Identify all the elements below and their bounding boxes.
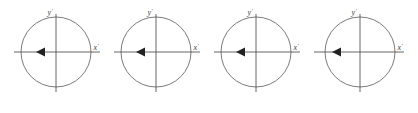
- x-axis-label: x′: [397, 43, 404, 52]
- y-axis-label: y′: [47, 8, 54, 17]
- y-axis-label: y′: [147, 8, 154, 17]
- x-axis-direction-arrow: [136, 48, 145, 57]
- x-axis-label: x′: [293, 43, 300, 52]
- figure-canvas: y′ x′ y′ x′ y′: [0, 0, 418, 113]
- x-axis-label: x′: [193, 43, 200, 52]
- y-axis-label: y′: [247, 8, 254, 17]
- coordinate-diagram-4: y′ x′: [304, 0, 418, 113]
- x-axis-direction-arrow: [332, 48, 341, 57]
- coordinate-diagram-3: y′ x′: [200, 0, 318, 113]
- x-axis-direction-arrow: [236, 48, 245, 57]
- x-axis-direction-arrow: [36, 48, 45, 57]
- x-axis-label: x′: [93, 43, 100, 52]
- y-axis-label: y′: [351, 8, 358, 17]
